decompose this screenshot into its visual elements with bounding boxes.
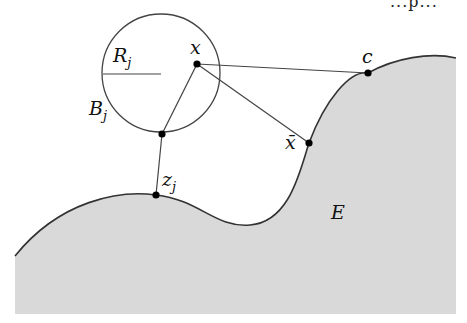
label-rj: Rj <box>113 46 131 69</box>
label-e: E <box>331 203 345 222</box>
point-zj <box>152 191 159 198</box>
label-bj: Bj <box>89 99 107 122</box>
label-zj: zj <box>162 170 176 193</box>
label-x: x <box>190 38 201 57</box>
point-ball-bottom <box>158 130 165 137</box>
point-x <box>193 60 200 67</box>
ball-bj <box>102 14 220 132</box>
label-c: c <box>362 47 373 66</box>
label-xbar: x̄ <box>285 133 296 152</box>
segment-x-c <box>197 64 368 73</box>
diagram-canvas: ...p... Rj x c Bj x̄ zj E <box>0 0 467 323</box>
diagram-svg <box>0 0 467 323</box>
point-c <box>364 69 371 76</box>
region-e <box>15 56 456 314</box>
point-xbar <box>305 139 312 146</box>
